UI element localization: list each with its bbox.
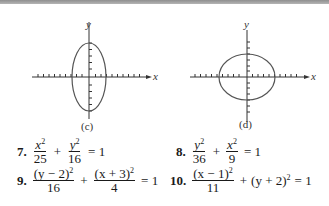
fraction: (x + 3)2 4 [94,167,136,194]
exponent: 2 [200,137,204,146]
denominator: 11 [206,181,221,194]
exercise-number: 8. [176,144,186,160]
numerator: (x − 1) [193,166,229,181]
denominator: 36 [192,152,207,165]
figure-d-x-label: x [310,70,316,82]
exponent: 2 [75,137,79,146]
fraction: (y − 2)2 16 [33,167,75,194]
fraction: y2 16 [67,138,82,165]
exponent: 2 [233,137,237,146]
denominator: 16 [46,181,61,194]
exercise-10: 10. (x − 1)2 11 + (y + 2)2 = 1 [170,167,316,194]
figure-d-axes [190,30,310,122]
fraction: (x − 1)2 11 [192,167,234,194]
operator: + [213,144,220,160]
figure-c-x-label: x [152,70,158,82]
exercise-8: 8. y2 36 + x2 9 = 1 [176,138,265,165]
figure-d-y-label: y [243,18,249,30]
exercise-number: 9. [17,173,27,189]
figure-c-axes [32,22,152,119]
numerator: (y − 2) [34,166,70,181]
equals-rhs: = 1 [295,173,312,189]
denominator: 16 [67,152,82,165]
denominator: 25 [33,152,48,165]
denominator: 4 [110,181,119,194]
exponent: 2 [130,166,134,175]
figure-c-caption: (c) [81,120,93,132]
figure-c-y-label: y [85,18,91,30]
exponent: 2 [229,166,233,175]
exercise-7: 7. x2 25 + y2 16 = 1 [17,138,109,165]
denominator: 9 [228,152,237,165]
fraction: x2 9 [226,138,238,165]
equals-rhs: = 1 [244,144,261,160]
operator: + [240,173,247,189]
exercise-number: 7. [17,144,27,160]
exponent: 2 [287,173,291,182]
exercise-9: 9. (y − 2)2 16 + (x + 3)2 4 = 1 [17,167,162,194]
numerator: (x + 3) [95,166,131,181]
exercise-number: 10. [170,173,186,189]
plain-term: (y + 2)2 [251,173,291,189]
equals-rhs: = 1 [141,173,158,189]
exponent: 2 [69,166,73,175]
equals-rhs: = 1 [88,144,105,160]
fraction: x2 25 [33,138,48,165]
operator: + [80,173,87,189]
operator: + [54,144,61,160]
fraction: y2 36 [192,138,207,165]
figure-d-caption: (d) [239,118,252,130]
exponent: 2 [41,137,45,146]
